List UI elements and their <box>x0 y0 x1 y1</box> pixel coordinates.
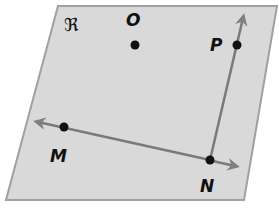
point-O <box>131 41 140 50</box>
label-O: O <box>126 10 140 30</box>
plane-label: ℜ <box>64 14 79 35</box>
label-N: N <box>200 176 214 196</box>
label-P: P <box>210 35 223 55</box>
point-M <box>60 123 69 132</box>
point-P <box>233 41 242 50</box>
plane-R <box>6 6 277 200</box>
label-M: M <box>50 146 67 166</box>
point-N <box>206 156 215 165</box>
geometry-diagram: ℜ O P M N <box>0 0 279 208</box>
